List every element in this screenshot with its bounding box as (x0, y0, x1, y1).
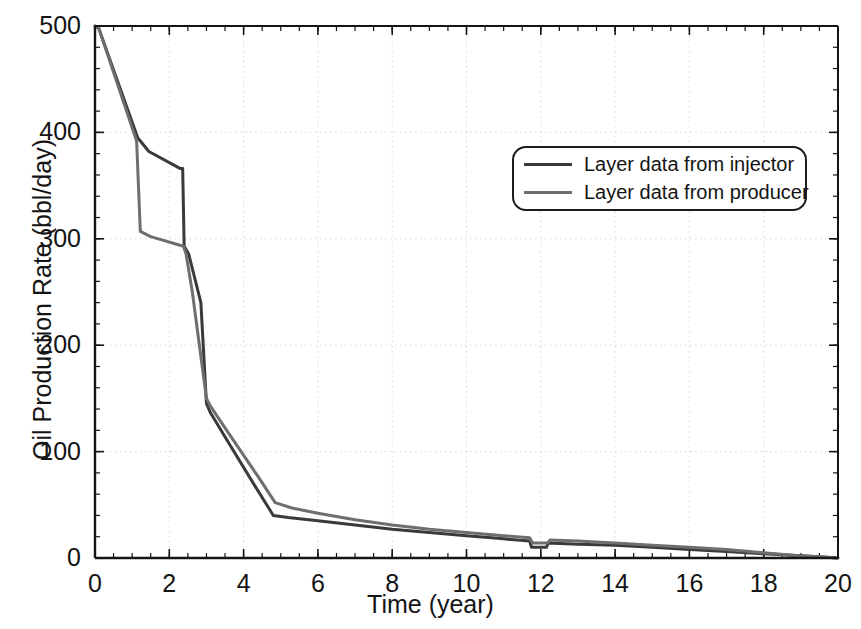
legend-swatch-injector (524, 163, 572, 166)
chart-canvas (0, 0, 861, 629)
legend-item-injector[interactable]: Layer data from injector (524, 151, 794, 177)
chart-legend[interactable]: Layer data from injector Layer data from… (512, 146, 807, 211)
legend-label-producer: Layer data from producer (584, 182, 809, 202)
chart-figure: 0100200300400500 02468101214161820 Time … (0, 0, 861, 629)
y-axis-title: Oil Production Rate (bbl/day) (30, 80, 55, 520)
legend-swatch-producer (524, 191, 572, 194)
legend-label-injector: Layer data from injector (584, 154, 794, 174)
y-tick-label: 500 (11, 13, 81, 38)
x-axis-title: Time (year) (0, 592, 861, 617)
legend-item-producer[interactable]: Layer data from producer (524, 179, 809, 205)
y-tick-label: 0 (11, 545, 81, 570)
